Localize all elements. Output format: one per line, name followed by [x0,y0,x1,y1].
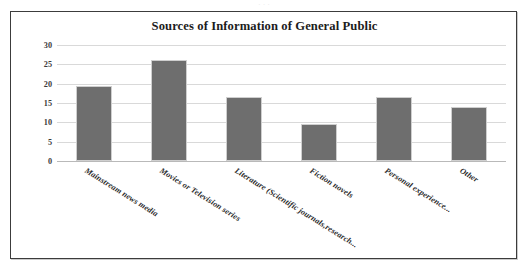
y-axis-tick-label: 15 [44,99,52,108]
plot-area: 051015202530 [57,45,506,161]
bar-slot [207,45,282,161]
x-axis-category-label: Mainstream news media [84,166,160,218]
x-axis-category-label: Other [458,166,480,184]
y-axis-tick-label: 0 [48,157,52,166]
page-bleed-text: · · · [0,0,528,9]
x-axis-category-label: Personal experience... [383,166,453,214]
bar[interactable] [376,97,412,161]
y-axis-tick-label: 5 [48,137,52,146]
bar-slot [282,45,357,161]
y-axis-tick-label: 30 [44,41,52,50]
bar-slot [132,45,207,161]
chart-title: Sources of Information of General Public [11,19,518,34]
bar[interactable] [301,124,337,161]
bar[interactable] [151,60,187,161]
y-axis-tick-label: 10 [44,118,52,127]
bar-slot [356,45,431,161]
bar[interactable] [226,97,262,161]
x-axis-category-label: Literature (Scientific journals,research… [233,166,359,249]
y-axis-tick-label: 20 [44,79,52,88]
y-axis-tick-label: 25 [44,60,52,69]
chart-figure-frame: Sources of Information of General Public… [10,11,517,259]
bar[interactable] [451,107,487,161]
bar-series [57,45,506,161]
bar-slot [431,45,506,161]
bar-slot [57,45,132,161]
bar[interactable] [76,86,112,161]
x-axis-category-label: Fiction novels [308,166,355,200]
gridline [57,161,506,162]
x-axis-category-label: Movies or Television series [158,166,242,223]
